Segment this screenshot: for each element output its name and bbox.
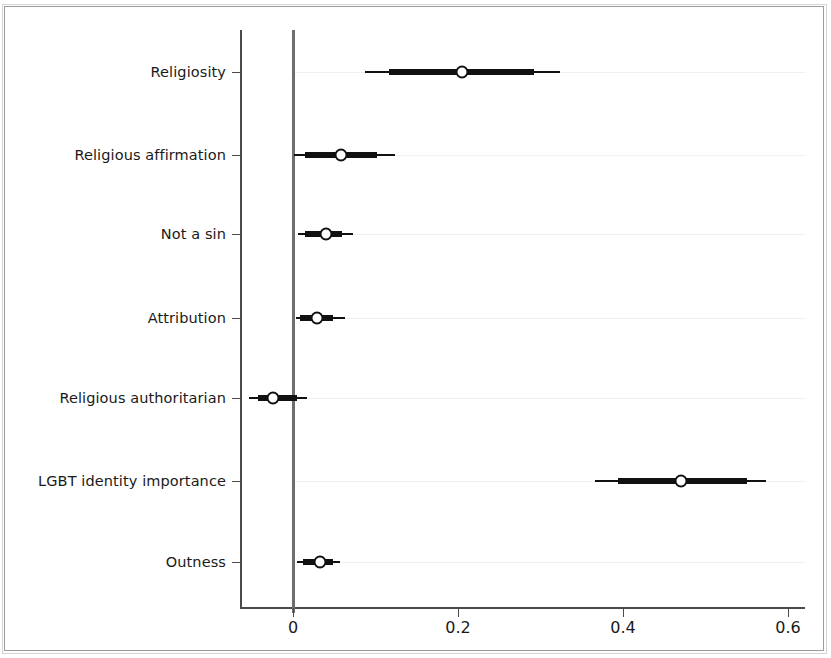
x-axis-tick-2 (623, 608, 624, 617)
gridline-row-2 (293, 234, 805, 235)
x-axis-tick-label-3: 0.6 (775, 618, 800, 637)
gridline-row-3 (293, 318, 805, 319)
y-axis-label-religious-affirmation: Religious affirmation (74, 147, 226, 163)
y-axis-label-not-a-sin: Not a sin (161, 226, 226, 242)
y-axis-label-lgbt-identity-importance: LGBT identity importance (38, 473, 226, 489)
y-axis-label-outness: Outness (166, 554, 226, 570)
y-axis-tick-6 (232, 562, 241, 563)
y-axis-tick-5 (232, 481, 241, 482)
figure-container: ReligiosityReligious affirmationNot a si… (0, 0, 831, 658)
y-axis-tick-1 (232, 155, 241, 156)
y-axis-label-religiosity: Religiosity (151, 64, 226, 80)
point-estimate-religious-authoritarian (267, 392, 280, 405)
y-axis-label-attribution: Attribution (148, 310, 226, 326)
point-estimate-lgbt-identity-importance (674, 475, 687, 488)
point-estimate-religiosity (456, 66, 469, 79)
point-estimate-not-a-sin (320, 228, 333, 241)
y-axis-tick-0 (232, 72, 241, 73)
y-axis-label-religious-authoritarian: Religious authoritarian (59, 390, 226, 406)
gridline-row-4 (293, 398, 805, 399)
x-axis-tick-label-1: 0.2 (445, 618, 470, 637)
plot-area: ReligiosityReligious affirmationNot a si… (0, 0, 831, 658)
y-axis-tick-3 (232, 318, 241, 319)
point-estimate-attribution (310, 312, 323, 325)
y-axis-tick-2 (232, 234, 241, 235)
point-estimate-religious-affirmation (334, 149, 347, 162)
gridline-row-6 (293, 562, 805, 563)
x-axis-line (240, 607, 805, 609)
y-axis-tick-4 (232, 398, 241, 399)
x-axis-tick-1 (458, 608, 459, 617)
x-axis-tick-label-2: 0.4 (610, 618, 635, 637)
x-axis-tick-label-0: 0 (288, 618, 298, 637)
point-estimate-outness (314, 556, 327, 569)
x-axis-tick-0 (293, 608, 294, 617)
zero-reference-line (292, 30, 295, 613)
x-axis-tick-3 (788, 608, 789, 617)
